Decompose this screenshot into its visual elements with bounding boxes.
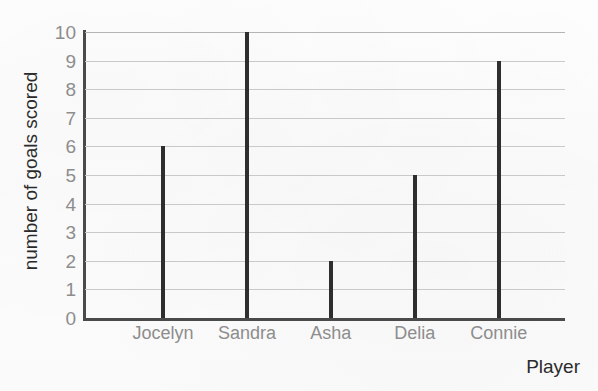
x-axis-tick-label: Delia [394, 324, 435, 342]
y-axis-tick-label: 7 [50, 109, 76, 128]
x-axis-line [83, 318, 565, 321]
y-axis-tick-label: 3 [50, 223, 76, 242]
y-axis-tick-label: 0 [50, 309, 76, 328]
y-axis-tick-label: 10 [50, 23, 76, 42]
chart-page: number of goals scored 012345678910 Play… [0, 0, 598, 391]
bar-asha [329, 261, 333, 318]
x-axis-tick-label: Connie [470, 324, 527, 342]
gridline [85, 261, 565, 262]
y-axis-tick-label: 5 [50, 166, 76, 185]
bar-connie [497, 61, 501, 318]
bar-jocelyn [161, 146, 165, 318]
bar-sandra [245, 32, 249, 318]
y-axis-tick-label: 8 [50, 80, 76, 99]
x-axis-tick-label: Jocelyn [133, 324, 194, 342]
y-axis-tick-label: 4 [50, 195, 76, 214]
gridline [85, 204, 565, 205]
x-axis-tick-label: Asha [310, 324, 351, 342]
plot-area [85, 32, 565, 318]
gridline [85, 232, 565, 233]
y-axis-tick-labels: 012345678910 [46, 0, 76, 391]
gridline [85, 289, 565, 290]
gridline [85, 146, 565, 147]
y-axis-title: number of goals scored [20, 56, 42, 286]
y-axis-tick-label: 9 [50, 52, 76, 71]
y-axis-tick-label: 2 [50, 252, 76, 271]
gridline [85, 61, 565, 62]
x-axis-tick-label: Sandra [218, 324, 276, 342]
x-axis-title: Player [526, 356, 580, 378]
y-axis-tick-label: 1 [50, 280, 76, 299]
gridline [85, 89, 565, 90]
gridline [85, 118, 565, 119]
bar-delia [413, 175, 417, 318]
gridline [85, 175, 565, 176]
y-axis-tick-label: 6 [50, 137, 76, 156]
gridline [85, 32, 565, 33]
